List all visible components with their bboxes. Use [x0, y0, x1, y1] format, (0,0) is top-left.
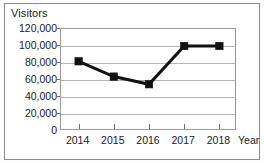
x-tick-label: 2014: [66, 134, 89, 146]
data-markers: [75, 42, 223, 88]
y-tick-label: 20,000: [25, 107, 57, 119]
x-tick-label: 2016: [136, 134, 159, 146]
data-point-marker: [110, 73, 117, 80]
visitors-line-series: [61, 29, 237, 131]
y-tick-label: 120,000: [19, 22, 57, 34]
data-point-marker: [216, 42, 223, 49]
y-axis-tick-labels: 020,00040,00060,00080,000100,000120,000: [0, 0, 57, 163]
data-point-marker: [145, 81, 152, 88]
y-tick-label: 40,000: [25, 90, 57, 102]
data-point-marker: [181, 42, 188, 49]
data-point-marker: [75, 58, 82, 65]
y-tick-label: 60,000: [25, 73, 57, 85]
x-tick-label: 2018: [207, 134, 230, 146]
x-tick-label: 2017: [172, 134, 195, 146]
y-tick-label: 80,000: [25, 56, 57, 68]
plot-area: [60, 28, 236, 130]
y-tick-label: 100,000: [19, 39, 57, 51]
x-axis-title: Year: [238, 134, 259, 146]
chart-figure: Visitors 020,00040,00060,00080,000100,00…: [0, 0, 264, 163]
x-tick-label: 2015: [101, 134, 124, 146]
data-line: [79, 46, 220, 84]
y-tick-label: 0: [51, 124, 57, 136]
